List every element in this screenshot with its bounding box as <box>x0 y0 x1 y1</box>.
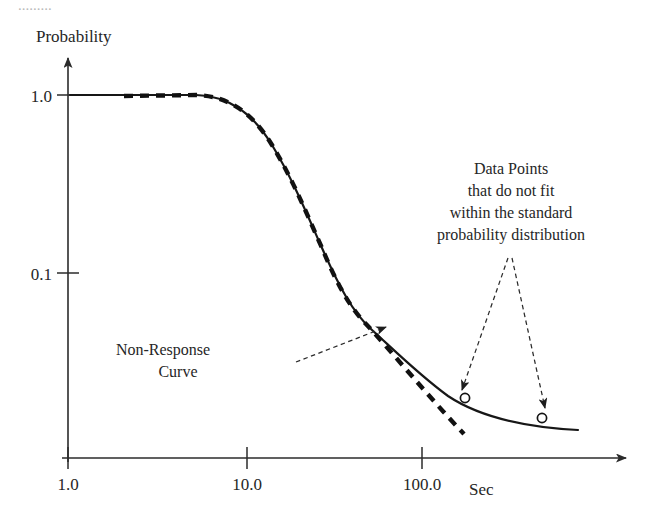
outlier-leader-arrow-1 <box>462 258 508 390</box>
x-axis-title: Sec <box>469 480 494 499</box>
outlier-annotation-line-3: within the standard <box>450 204 573 221</box>
outlier-annotation-line-1: Data Points <box>474 160 548 177</box>
non-response-curve-dashed <box>124 95 464 434</box>
x-tick-label-100.0: 100.0 <box>403 475 441 494</box>
x-tick-label-1.0: 1.0 <box>57 475 78 494</box>
non-response-leader-arrow <box>296 327 386 362</box>
y-tick-label-1.0: 1.0 <box>31 87 52 106</box>
chart-figure: ......... 1.0 0.1 1.0 10.0 100.0 Probabi… <box>0 0 661 516</box>
data-point-marker-1 <box>460 393 469 402</box>
probability-chart: ......... 1.0 0.1 1.0 10.0 100.0 Probabi… <box>0 0 661 516</box>
outlier-annotation-line-2: that do not fit <box>468 182 555 199</box>
outlier-annotation: Data Points that do not fit within the s… <box>437 160 585 244</box>
cropped-text-remnant: ......... <box>18 0 52 13</box>
non-response-annotation-line-1: Non-Response <box>116 341 210 359</box>
data-point-marker-2 <box>537 413 546 422</box>
data-point-markers <box>460 393 546 422</box>
response-curve-solid <box>70 95 578 430</box>
x-tick-label-10.0: 10.0 <box>232 475 262 494</box>
non-response-annotation: Non-Response Curve <box>116 341 210 380</box>
y-tick-label-0.1: 0.1 <box>31 265 52 284</box>
y-axis-title: Probability <box>36 27 112 46</box>
non-response-annotation-line-2: Curve <box>158 363 197 380</box>
axes-group <box>62 58 626 462</box>
outlier-leader-arrow-2 <box>512 258 545 408</box>
outlier-annotation-line-4: probability distribution <box>437 226 585 244</box>
